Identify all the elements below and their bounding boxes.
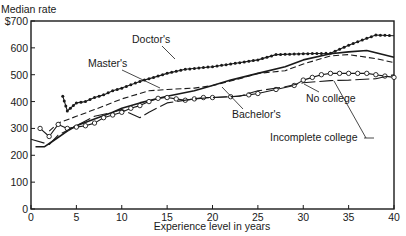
- marker-filled: [63, 100, 66, 103]
- marker-filled: [157, 75, 160, 78]
- marker-filled: [334, 50, 337, 53]
- marker-filled: [343, 46, 346, 49]
- marker-filled: [225, 63, 228, 66]
- marker-filled: [320, 52, 323, 55]
- x-tick-label: 30: [297, 211, 309, 223]
- marker-filled: [365, 37, 368, 40]
- marker-open-circle: [174, 97, 178, 101]
- label-doctors: Doctor's: [132, 33, 170, 45]
- y-tick-label: 400: [10, 96, 28, 108]
- marker-open-circle: [256, 91, 260, 95]
- marker-open-circle: [392, 75, 396, 79]
- marker-filled: [102, 93, 105, 96]
- marker-filled: [379, 34, 382, 37]
- y-tick-label: $700: [5, 15, 29, 27]
- x-tick-label: 5: [73, 211, 79, 223]
- marker-open-circle: [310, 75, 314, 79]
- series-group: [31, 33, 396, 146]
- marker-filled: [256, 58, 259, 61]
- marker-open-circle: [47, 134, 51, 138]
- marker-filled: [361, 39, 364, 42]
- marker-filled: [265, 56, 268, 59]
- marker-open-circle: [374, 73, 378, 77]
- marker-filled: [311, 52, 314, 55]
- marker-filled: [125, 85, 128, 88]
- marker-filled: [252, 59, 255, 62]
- marker-filled: [61, 95, 64, 98]
- marker-filled: [111, 89, 114, 92]
- marker-filled: [388, 34, 391, 37]
- marker-filled: [188, 67, 191, 70]
- marker-filled: [284, 53, 287, 56]
- marker-filled: [315, 52, 318, 55]
- marker-filled: [293, 53, 296, 56]
- marker-filled: [69, 107, 72, 110]
- arrow-incomplete-college: [334, 81, 366, 138]
- marker-filled: [98, 95, 101, 98]
- marker-open-circle: [83, 124, 87, 128]
- marker-filled: [193, 67, 196, 70]
- marker-filled: [175, 70, 178, 73]
- marker-filled: [72, 104, 75, 107]
- marker-filled: [211, 65, 214, 68]
- marker-filled: [275, 53, 278, 56]
- marker-open-circle: [319, 73, 323, 77]
- marker-filled: [297, 52, 300, 55]
- marker-open-circle: [147, 99, 151, 103]
- marker-filled: [152, 76, 155, 79]
- marker-open-circle: [138, 103, 142, 107]
- arrow-masters: [122, 70, 160, 88]
- marker-open-circle: [101, 115, 105, 119]
- marker-filled: [93, 96, 96, 99]
- marker-open-circle: [56, 122, 60, 126]
- label-bachelors: Bachelor's: [232, 108, 281, 120]
- marker-filled: [270, 54, 273, 57]
- marker-open-circle: [337, 71, 341, 75]
- marker-filled: [197, 67, 200, 70]
- arrow-no-college: [304, 84, 319, 92]
- marker-filled: [206, 66, 209, 69]
- marker-filled: [147, 77, 150, 80]
- median-rate-chart: Median rate 0100200300400500600$700 0510…: [0, 0, 406, 236]
- marker-filled: [107, 91, 110, 94]
- marker-filled: [179, 69, 182, 72]
- arrow-doctors: [162, 46, 175, 59]
- marker-filled: [234, 62, 237, 65]
- arrow-bachelors: [222, 87, 243, 109]
- marker-filled: [134, 82, 137, 85]
- marker-open-circle: [346, 71, 350, 75]
- marker-filled: [302, 52, 305, 55]
- y-tick-label: 500: [10, 69, 28, 81]
- marker-filled: [238, 61, 241, 64]
- marker-filled: [184, 68, 187, 71]
- marker-filled: [247, 60, 250, 63]
- label-no-college: No college: [306, 92, 356, 104]
- marker-filled: [229, 62, 232, 65]
- marker-filled: [170, 71, 173, 74]
- marker-filled: [202, 66, 205, 69]
- x-tick-label: 10: [116, 211, 128, 223]
- marker-filled: [216, 64, 219, 67]
- marker-open-circle: [328, 71, 332, 75]
- marker-filled: [279, 53, 282, 56]
- marker-filled: [261, 57, 264, 60]
- marker-filled: [116, 88, 119, 91]
- marker-filled: [383, 34, 386, 37]
- marker-open-circle: [129, 106, 133, 110]
- marker-open-circle: [356, 71, 360, 75]
- marker-filled: [306, 52, 309, 55]
- marker-open-circle: [92, 121, 96, 125]
- chart-canvas: Median rate 0100200300400500600$700 0510…: [0, 0, 406, 236]
- marker-filled: [84, 100, 87, 103]
- marker-filled: [374, 33, 377, 36]
- marker-filled: [66, 109, 69, 112]
- marker-filled: [161, 73, 164, 76]
- x-tick-label: 35: [343, 211, 355, 223]
- x-tick-label: 40: [388, 211, 400, 223]
- label-incomplete-college: Incomplete college: [270, 131, 358, 143]
- marker-open-circle: [156, 96, 160, 100]
- y-tick-label: 200: [10, 149, 28, 161]
- marker-open-circle: [365, 71, 369, 75]
- marker-filled: [166, 72, 169, 75]
- x-tick-label: 0: [28, 211, 34, 223]
